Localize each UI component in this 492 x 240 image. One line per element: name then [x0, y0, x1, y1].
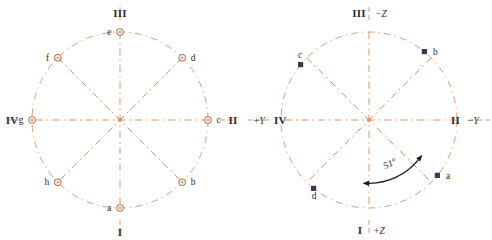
point-b[interactable]: b — [422, 47, 438, 57]
point-label-b: b — [191, 177, 196, 187]
right-circle-diagram: abcd 51° III −Z I +Z +Y IV II −Y — [246, 0, 492, 240]
point-c[interactable]: c — [298, 50, 303, 68]
center-dot — [118, 118, 122, 122]
angle-arc-annotation: 51° — [363, 155, 423, 186]
quadrant-label-I: I — [118, 226, 122, 238]
axis-label-bottom: I +Z — [358, 224, 386, 236]
axis-label-right: II −Y — [451, 114, 480, 126]
point-group: abcd — [298, 47, 451, 202]
point-label-a: a — [107, 203, 112, 213]
point-g[interactable]: g — [19, 115, 35, 125]
point-h[interactable]: h — [45, 177, 61, 187]
quadrant-label-II: II — [229, 114, 238, 126]
axis-name-bottom: +Z — [373, 226, 385, 236]
axis-roman-right: II — [451, 114, 460, 126]
point-label-a: a — [446, 171, 451, 181]
angle-value-label: 51° — [382, 156, 398, 171]
quadrant-label-IV: IV — [6, 114, 19, 126]
point-label-d: d — [191, 53, 196, 63]
axis-label-top: III −Z — [352, 7, 387, 19]
axis-roman-bottom: I — [358, 224, 362, 236]
point-label-c: c — [298, 50, 302, 60]
point-label-e: e — [107, 27, 111, 37]
point-label-c: c — [217, 115, 221, 125]
axis-roman-top: III — [352, 7, 365, 19]
quadrant-label-III: III — [113, 7, 126, 19]
point-b[interactable]: b — [179, 177, 196, 187]
axis-name-top: −Z — [375, 9, 387, 19]
point-e[interactable]: e — [107, 27, 123, 37]
point-a[interactable]: a — [435, 171, 451, 181]
point-f[interactable]: f — [46, 53, 61, 63]
point-label-f: f — [46, 53, 50, 63]
point-label-b: b — [433, 47, 438, 57]
axis-roman-left: IV — [274, 114, 287, 126]
figure-stage: abcdefgh III I IV II abcd 51° III −Z — [0, 0, 492, 240]
point-label-g: g — [19, 115, 24, 125]
point-label-d: d — [312, 191, 317, 201]
point-c[interactable]: c — [205, 115, 221, 125]
angle-arrow-head-start — [363, 181, 370, 186]
center-dot — [367, 118, 371, 122]
point-label-h: h — [45, 177, 50, 187]
axis-name-left: +Y — [253, 116, 266, 126]
left-circle-diagram: abcdefgh III I IV II — [0, 0, 246, 240]
point-a[interactable]: a — [107, 203, 123, 213]
point-d[interactable]: d — [179, 53, 196, 63]
axis-label-left: +Y IV — [253, 114, 287, 126]
point-d[interactable]: d — [311, 186, 317, 202]
axis-name-right: −Y — [467, 116, 480, 126]
